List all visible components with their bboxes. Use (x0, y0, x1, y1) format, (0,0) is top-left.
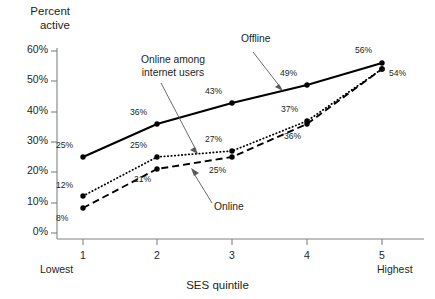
data-label-offline-5: 56% (355, 46, 372, 56)
y-tick-label-10: 10% (14, 196, 48, 208)
data-label-oaiu-2: 25% (130, 141, 147, 151)
x-axis-end-label-lowest: Lowest (40, 264, 73, 276)
data-label-offline-2: 36% (130, 108, 147, 118)
annotation-online: Online (214, 201, 244, 213)
data-label-offline-3: 43% (205, 87, 222, 97)
series-line-online (83, 69, 382, 208)
x-tick-label-2: 2 (145, 250, 169, 262)
x-tick-label-5: 5 (370, 250, 394, 262)
y-tick-label-0: 0% (14, 226, 48, 238)
annotation-offline: Offline (241, 33, 271, 45)
data-label-oaiu-3: 27% (205, 135, 222, 145)
y-tick-label-40: 40% (14, 105, 48, 117)
annotation-online-among-internet-users-line2: internet users (118, 67, 228, 79)
annotation-online-among-internet-users-line1: Online among (118, 54, 228, 66)
x-tick-label-4: 4 (295, 250, 319, 262)
annotation-leader-online-among-internet-users (161, 83, 198, 154)
data-label-online-2: 21% (134, 175, 151, 185)
data-label-offline-4: 49% (280, 69, 297, 79)
series-markers-online-among-internet-users (80, 66, 384, 198)
data-label-oaiu-1: 12% (56, 181, 73, 191)
data-label-oaiu-5: 54% (389, 69, 406, 79)
data-label-offline-1: 25% (56, 141, 73, 151)
data-label-online-3: 25% (209, 166, 226, 176)
y-tick-label-60: 60% (14, 44, 48, 56)
x-tick-label-1: 1 (71, 250, 95, 262)
chart-container: Percent active (0, 0, 435, 299)
x-axis-title: SES quintile (0, 279, 435, 292)
x-tick-label-3: 3 (220, 250, 244, 262)
series-line-online-among-internet-users (83, 69, 382, 196)
data-label-oaiu-4: 37% (281, 105, 298, 115)
data-label-online-1: 8% (56, 214, 68, 224)
data-label-online-4: 36% (284, 132, 301, 142)
y-tick-label-50: 50% (14, 74, 48, 86)
annotation-leader-offline (253, 52, 283, 91)
x-axis-end-label-highest: Highest (377, 264, 413, 276)
y-tick-label-30: 30% (14, 135, 48, 147)
y-tick-label-20: 20% (14, 165, 48, 177)
